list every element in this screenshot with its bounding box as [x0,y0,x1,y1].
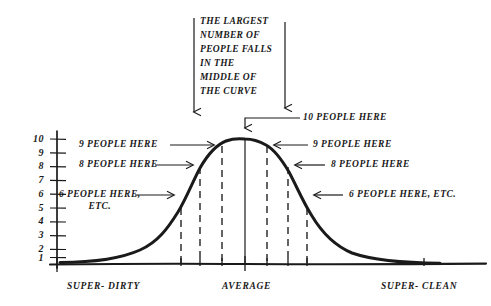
bell-curve-diagram: THE LARGEST NUMBER OF PEOPLE FALLS IN TH… [0,0,491,306]
y-tick-label-4: 4 [28,215,44,227]
title-annotation-line-6: THE CURVE [200,84,278,98]
bin-dashed-lines [181,146,307,263]
callout-left-6-line-2: ETC. [59,201,141,213]
callout-right-8: 8 PEOPLE HERE [331,159,410,171]
title-annotation-line-5: MIDDLE OF [200,70,278,84]
y-tick-label-7: 7 [28,174,44,186]
title-annotation-line-3: PEOPLE FALLS [200,42,278,56]
title-annotation: THE LARGEST NUMBER OF PEOPLE FALLS IN TH… [200,14,278,98]
title-annotation-line-1: THE LARGEST [200,14,278,28]
title-annotation-line-4: IN THE [200,56,278,70]
y-tick-label-1: 1 [28,252,44,264]
callout-right-9: 9 PEOPLE HERE [313,139,392,151]
peak-callout-leader [245,118,300,128]
callout-left-9: 9 PEOPLE HERE [79,139,158,151]
callout-peak-10: 10 PEOPLE HERE [303,112,387,124]
callout-left-8: 8 PEOPLE HERE [79,159,158,171]
callout-left-6-line-1: 6 PEOPLE HERE, [59,189,141,201]
x-axis-label-super-clean: SUPER- CLEAN [381,281,457,293]
y-tick-label-5: 5 [28,202,44,214]
callout-left-6: 6 PEOPLE HERE, ETC. [59,189,141,212]
x-axis-label-super-dirty: SUPER- DIRTY [67,281,140,293]
y-tick-label-3: 3 [28,229,44,241]
y-tick-label-10: 10 [28,133,44,145]
callout-right-6: 6 PEOPLE HERE, ETC. [349,189,456,201]
x-axis-label-average: AVERAGE [222,281,271,293]
y-tick-label-9: 9 [28,147,44,159]
title-annotation-line-2: NUMBER OF [200,28,278,42]
y-tick-label-6: 6 [28,188,44,200]
y-tick-label-8: 8 [28,160,44,172]
